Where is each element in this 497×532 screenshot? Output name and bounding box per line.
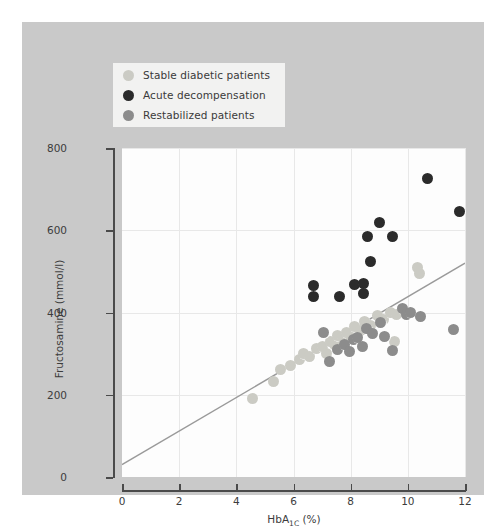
x-tick-mark	[179, 484, 181, 491]
legend-swatch-icon-restabilized	[123, 110, 134, 121]
y-axis-label: Fructosamine (mmol/l)	[53, 239, 65, 399]
x-tick-mark	[236, 484, 238, 491]
data-point	[387, 345, 398, 356]
data-point	[308, 291, 319, 302]
x-tick-mark	[408, 484, 410, 491]
x-tick-label: 2	[176, 495, 183, 507]
y-tick-mark	[106, 395, 113, 397]
legend-item-restabilized-patients: Restabilized patients	[123, 105, 255, 125]
plot-area	[122, 148, 465, 477]
data-point	[308, 280, 319, 291]
legend-item-acute-decompensation: Acute decompensation	[123, 85, 266, 105]
y-tick-mark	[106, 230, 113, 232]
data-point	[358, 288, 369, 299]
y-tick-label: 600	[47, 224, 67, 236]
legend-swatch-icon-acute	[123, 90, 134, 101]
data-point	[344, 346, 355, 357]
x-axis-label: HbA1C (%)	[122, 513, 466, 528]
data-point	[367, 328, 378, 339]
x-axis-label-subscript: 1C	[289, 519, 299, 528]
x-tick-label: 12	[458, 495, 471, 507]
x-tick-label: 6	[290, 495, 297, 507]
data-point	[357, 341, 368, 352]
data-point	[324, 356, 335, 367]
x-tick-mark	[465, 484, 467, 491]
x-tick-mark	[351, 484, 353, 491]
data-point	[374, 217, 385, 228]
chart-legend: Stable diabetic patients Acute decompens…	[113, 63, 285, 127]
x-tick-label: 10	[401, 495, 414, 507]
x-tick-mark	[294, 484, 296, 491]
x-axis-label-unit: (%)	[302, 513, 320, 525]
legend-swatch-icon-stable	[123, 70, 134, 81]
data-point	[375, 317, 386, 328]
legend-item-stable-diabetic-patients: Stable diabetic patients	[123, 65, 270, 85]
data-point	[365, 256, 376, 267]
x-tick-label: 0	[119, 495, 126, 507]
y-tick-label: 0	[60, 471, 67, 483]
data-point	[414, 268, 425, 279]
y-tick-mark	[106, 148, 113, 150]
legend-label-acute: Acute decompensation	[143, 89, 266, 101]
x-tick-mark	[122, 484, 124, 491]
data-points-layer	[122, 148, 465, 477]
chart-panel: Stable diabetic patients Acute decompens…	[22, 22, 484, 495]
y-tick-label: 800	[47, 142, 67, 154]
data-point	[247, 393, 258, 404]
data-point	[334, 291, 345, 302]
x-axis-label-base: HbA	[267, 513, 289, 525]
data-point	[362, 231, 373, 242]
legend-label-restabilized: Restabilized patients	[143, 109, 255, 121]
data-point	[387, 231, 398, 242]
data-point	[422, 173, 433, 184]
data-point	[454, 206, 465, 217]
data-point	[448, 324, 459, 335]
y-tick-mark	[106, 477, 113, 479]
gridline-vertical	[465, 148, 466, 477]
data-point	[318, 327, 329, 338]
data-point	[415, 311, 426, 322]
x-tick-label: 4	[233, 495, 240, 507]
data-point	[268, 376, 279, 387]
y-axis-line	[113, 148, 115, 478]
legend-label-stable: Stable diabetic patients	[143, 69, 270, 81]
scatter-chart-figure: Stable diabetic patients Acute decompens…	[0, 0, 497, 532]
y-tick-mark	[106, 313, 113, 315]
x-tick-label: 8	[347, 495, 354, 507]
